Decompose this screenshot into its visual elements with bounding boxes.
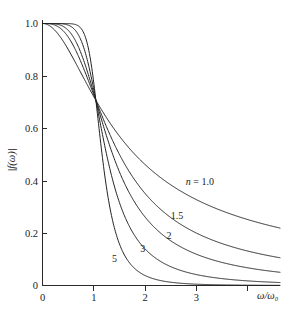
curve-label-5: 5 — [112, 253, 117, 264]
y-tick-label-0.6: 0.6 — [25, 123, 38, 134]
y-axis-title: |f(ω)| — [6, 148, 18, 171]
y-tick-label-1.0: 1.0 — [25, 18, 38, 29]
y-axis-ticks — [43, 24, 48, 234]
x-axis-ticks — [94, 286, 248, 291]
x-axis-tick-labels: 0 1 2 3 — [40, 292, 199, 303]
data-curves — [43, 24, 281, 286]
axis-lines — [43, 20, 281, 286]
x-tick-label-1: 1 — [91, 292, 96, 303]
y-axis-tick-labels: 1.0 0.8 0.6 0.4 0.2 0 — [25, 18, 39, 291]
x-tick-label-0: 0 — [40, 292, 45, 303]
curve-n-1.0 — [43, 24, 281, 229]
curve-n-5 — [43, 24, 281, 286]
curve-n-3 — [43, 24, 281, 283]
curve-label-3: 3 — [140, 243, 145, 254]
y-tick-label-0.8: 0.8 — [25, 71, 38, 82]
curve-label-2: 2 — [167, 230, 172, 241]
chart-figure: 1.0 0.8 0.6 0.4 0.2 0 0 1 2 3 ω/ω₀ |f(ω)… — [0, 0, 294, 312]
curve-label-n-value: = 1.0 — [191, 176, 214, 187]
curve-label-1.5: 1.5 — [171, 210, 184, 221]
y-tick-label-0: 0 — [33, 280, 38, 291]
y-tick-label-0.2: 0.2 — [25, 228, 38, 239]
x-axis-title: ω/ω₀ — [257, 290, 279, 301]
curve-label-n-1.0: n = 1.0 — [186, 176, 214, 187]
butterworth-response-chart: 1.0 0.8 0.6 0.4 0.2 0 0 1 2 3 ω/ω₀ |f(ω)… — [0, 0, 294, 312]
x-tick-label-3: 3 — [194, 292, 199, 303]
curve-n-2 — [43, 24, 281, 273]
x-tick-label-2: 2 — [142, 292, 147, 303]
y-tick-label-0.4: 0.4 — [25, 176, 39, 187]
curve-n-1.5 — [43, 24, 281, 258]
